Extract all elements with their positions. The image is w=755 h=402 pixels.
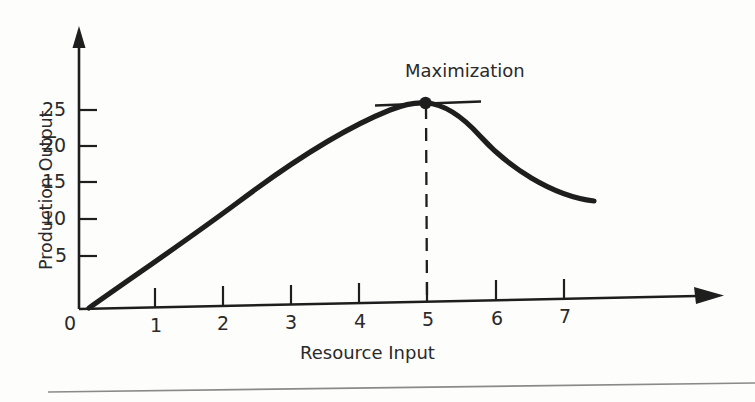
maximization-annotation-label: Maximization	[405, 62, 525, 80]
y-tick-label-20: 20	[42, 136, 66, 155]
x-tick-label-0: 0	[64, 314, 76, 333]
y-tick-label-15: 15	[42, 172, 66, 191]
maximization-drop-line	[426, 106, 427, 301]
x-axis-title: Resource Input	[300, 344, 435, 362]
y-tick-label-25: 25	[42, 100, 66, 119]
x-tick-label-7: 7	[559, 307, 571, 326]
y-axis-arrow-icon	[73, 26, 86, 48]
x-tick-label-1: 1	[150, 316, 162, 335]
footer-rule	[48, 383, 755, 392]
x-tick-label-6: 6	[491, 309, 503, 328]
x-axis-arrow-icon	[694, 287, 724, 304]
x-axis	[79, 287, 724, 309]
maximization-point-marker	[419, 97, 431, 109]
production-function-figure: Production Output 25 20 15 10 5 0 1 2 3 …	[0, 0, 755, 402]
x-tick-label-4: 4	[354, 312, 366, 331]
x-tick-label-2: 2	[217, 314, 229, 333]
y-axis	[73, 26, 86, 309]
x-tick-label-5: 5	[422, 310, 434, 329]
y-tick-label-10: 10	[42, 209, 66, 228]
x-tick-label-3: 3	[285, 313, 297, 332]
y-tick-label-5: 5	[55, 246, 67, 265]
production-curve	[89, 103, 594, 308]
y-axis-ticks	[79, 110, 97, 256]
